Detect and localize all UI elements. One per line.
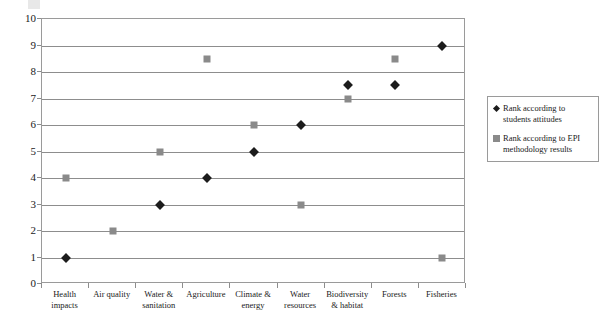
gridline <box>42 99 464 100</box>
x-axis-category-label: Water & sanitation <box>135 289 182 310</box>
y-axis-tick-label: 2 <box>2 225 36 236</box>
gridline <box>42 46 464 47</box>
gridline <box>42 231 464 232</box>
legend-label-epi: Rank according to EPI methodology result… <box>503 133 593 154</box>
x-axis-tick-mark <box>135 283 136 288</box>
plot-area <box>41 18 465 283</box>
y-axis-tick-label: 8 <box>2 66 36 77</box>
y-axis-tick-label: 7 <box>2 92 36 103</box>
data-point-square <box>439 254 446 261</box>
x-axis-category-label: Health impacts <box>41 289 88 310</box>
gridline <box>42 205 464 206</box>
legend-item-epi: Rank according to EPI methodology result… <box>493 133 593 154</box>
y-axis-tick-mark <box>37 204 41 205</box>
legend-label-students: Rank according to students attitudes <box>503 103 593 124</box>
y-axis-tick-mark <box>37 151 41 152</box>
y-axis-tick-label: 0 <box>2 278 36 289</box>
data-point-diamond <box>155 200 165 210</box>
legend-item-students: Rank according to students attitudes <box>493 103 593 124</box>
data-point-square <box>156 148 163 155</box>
y-axis-tick-mark <box>37 45 41 46</box>
data-point-square <box>251 122 258 129</box>
chart-container: 012345678910 Rank according to students … <box>0 0 608 330</box>
x-axis-category-label: Water resources <box>277 289 324 310</box>
y-axis-tick-mark <box>37 177 41 178</box>
gridline <box>42 258 464 259</box>
x-axis-tick-mark <box>229 283 230 288</box>
data-point-diamond <box>390 80 400 90</box>
y-axis-tick-mark <box>37 18 41 19</box>
data-point-square <box>109 228 116 235</box>
chart-legend: Rank according to students attitudes Ran… <box>487 96 599 162</box>
square-marker-icon <box>493 135 500 142</box>
x-axis-tick-mark <box>418 283 419 288</box>
data-point-diamond <box>437 41 447 51</box>
y-axis-tick-mark <box>37 230 41 231</box>
x-axis-tick-mark <box>465 283 466 288</box>
data-point-diamond <box>61 253 71 263</box>
data-point-square <box>345 95 352 102</box>
x-axis-category-label: Biodiversity & habitat <box>324 289 371 310</box>
data-point-square <box>203 55 210 62</box>
data-point-square <box>298 201 305 208</box>
x-axis-tick-mark <box>41 283 42 288</box>
y-axis: 012345678910 <box>0 18 36 283</box>
data-point-square <box>62 175 69 182</box>
y-axis-tick-label: 6 <box>2 119 36 130</box>
gridline <box>42 178 464 179</box>
data-point-square <box>392 55 399 62</box>
data-point-diamond <box>296 120 306 130</box>
x-axis-category-label: Agriculture <box>182 289 229 300</box>
y-axis-tick-label: 10 <box>2 13 36 24</box>
x-axis-tick-mark <box>324 283 325 288</box>
x-axis-tick-mark <box>371 283 372 288</box>
y-axis-tick-label: 9 <box>2 39 36 50</box>
y-axis-tick-mark <box>37 71 41 72</box>
y-axis-tick-mark <box>37 98 41 99</box>
data-point-diamond <box>343 80 353 90</box>
top-edge-artifact <box>28 0 40 9</box>
x-axis-tick-mark <box>88 283 89 288</box>
x-axis-tick-mark <box>182 283 183 288</box>
y-axis-tick-label: 5 <box>2 145 36 156</box>
y-axis-tick-mark <box>37 257 41 258</box>
y-axis-tick-label: 3 <box>2 198 36 209</box>
data-point-diamond <box>202 173 212 183</box>
y-axis-tick-label: 4 <box>2 172 36 183</box>
x-axis-category-label: Air quality <box>88 289 135 300</box>
y-axis-tick-label: 1 <box>2 251 36 262</box>
x-axis-category-label: Forests <box>371 289 418 300</box>
x-axis-category-label: Climate & energy <box>229 289 276 310</box>
gridline <box>42 72 464 73</box>
x-axis-category-label: Fisheries <box>418 289 465 300</box>
y-axis-tick-mark <box>37 124 41 125</box>
data-point-diamond <box>249 147 259 157</box>
x-axis-tick-mark <box>277 283 278 288</box>
diamond-marker-icon <box>493 105 500 112</box>
